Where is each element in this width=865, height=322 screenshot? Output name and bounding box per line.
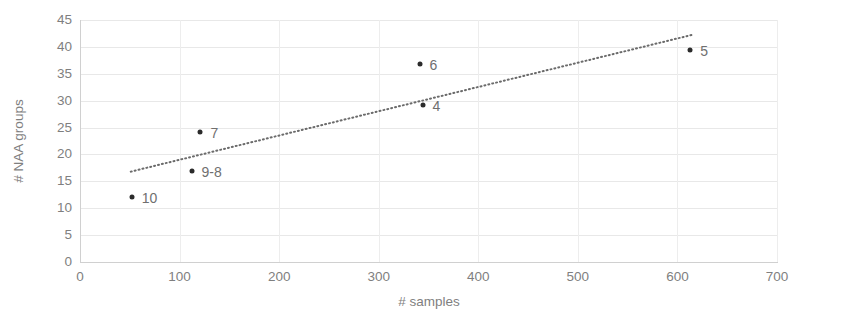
data-point — [189, 168, 194, 173]
gridline-horizontal — [80, 101, 777, 102]
x-axis-line — [80, 262, 778, 263]
gridline-horizontal — [80, 181, 777, 182]
gridline-vertical — [379, 20, 380, 262]
data-point — [420, 102, 425, 107]
y-axis-line — [80, 20, 81, 263]
y-tick-label: 40 — [12, 40, 72, 54]
y-tick-label: 10 — [12, 201, 72, 215]
gridline-horizontal — [80, 20, 777, 21]
x-tick-label: 500 — [567, 270, 590, 284]
x-axis-title: # samples — [398, 294, 460, 309]
gridline-horizontal — [80, 208, 777, 209]
gridline-horizontal — [80, 128, 777, 129]
y-tick-label: 45 — [12, 13, 72, 27]
data-point — [198, 129, 203, 134]
gridline-vertical — [279, 20, 280, 262]
data-point — [129, 195, 134, 200]
y-tick-label: 35 — [12, 67, 72, 81]
gridline-vertical — [777, 20, 778, 262]
x-tick-label: 700 — [766, 270, 789, 284]
data-point-label: 5 — [700, 44, 708, 58]
gridline-horizontal — [80, 74, 777, 75]
data-point-label: 6 — [430, 58, 438, 72]
gridline-horizontal — [80, 47, 777, 48]
gridline-vertical — [677, 20, 678, 262]
data-point-label: 4 — [433, 99, 441, 113]
x-tick-label: 400 — [467, 270, 490, 284]
x-tick-label: 0 — [76, 270, 84, 284]
plot-area — [80, 20, 777, 262]
data-point-label: 9-8 — [202, 165, 222, 179]
gridline-vertical — [478, 20, 479, 262]
data-point — [417, 62, 422, 67]
data-point — [688, 47, 693, 52]
x-tick-label: 200 — [268, 270, 291, 284]
x-tick-label: 100 — [168, 270, 191, 284]
x-tick-label: 300 — [367, 270, 390, 284]
gridline-vertical — [180, 20, 181, 262]
gridline-horizontal — [80, 154, 777, 155]
data-point-label: 10 — [142, 191, 158, 205]
y-tick-label: 0 — [12, 255, 72, 269]
x-tick-label: 600 — [666, 270, 689, 284]
gridline-horizontal — [80, 235, 777, 236]
y-tick-label: 5 — [12, 228, 72, 242]
scatter-chart: 051015202530354045 010020030040050060070… — [0, 0, 865, 322]
y-axis-title: # NAA groups — [11, 99, 26, 182]
gridline-vertical — [578, 20, 579, 262]
data-point-label: 7 — [210, 126, 218, 140]
